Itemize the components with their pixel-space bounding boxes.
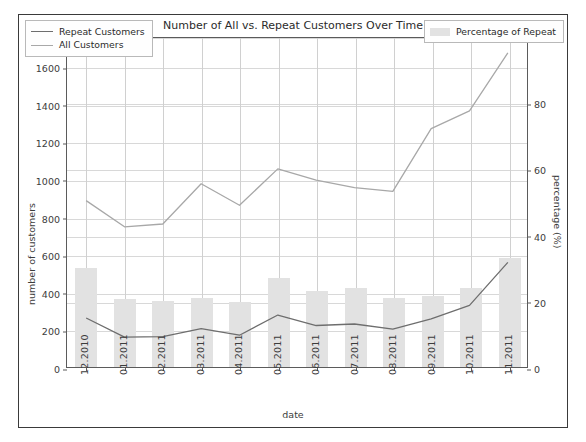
y-tick-label-right: 80	[527, 99, 546, 110]
line-series-layer	[67, 38, 527, 367]
line-all-customers	[86, 53, 508, 227]
x-tick-label: 01.2011	[118, 334, 129, 375]
line-swatch-icon	[31, 45, 53, 46]
line-repeat-customers	[86, 262, 508, 337]
y-axis-label-left: number of customers	[26, 203, 37, 305]
y-tick-label-right: 40	[527, 231, 546, 242]
y-tick-label-left: 1600	[36, 63, 67, 74]
legend-bars: Percentage of Repeat	[424, 20, 564, 43]
legend-label: All Customers	[59, 38, 123, 51]
line-swatch-icon	[31, 31, 53, 32]
x-tick-label: 07.2011	[349, 334, 360, 375]
bar-swatch-icon	[430, 28, 450, 36]
y-tick-label-left: 600	[42, 251, 67, 262]
y-tick-label-left: 1200	[36, 138, 67, 149]
y-axis-label-right: percentage (%)	[552, 175, 563, 249]
y-tick-label-right: 20	[527, 297, 546, 308]
y-tick-label-right: 0	[527, 364, 540, 375]
y-tick-label-left: 0	[54, 364, 67, 375]
x-tick-label: 06.2011	[310, 334, 321, 375]
chart-figure: Number of All vs. Repeat Customers Over …	[18, 14, 568, 428]
legend-label: Repeat Customers	[59, 25, 145, 38]
y-tick-label-left: 400	[42, 288, 67, 299]
x-tick-label: 09.2011	[426, 334, 437, 375]
y-tick-label-left: 1000	[36, 175, 67, 186]
x-tick-label: 04.2011	[233, 334, 244, 375]
x-tick-label: 11.2011	[503, 334, 514, 375]
y-tick-label-right: 60	[527, 165, 546, 176]
y-tick-label-left: 1400	[36, 100, 67, 111]
legend-item-repeat-customers: Repeat Customers	[31, 25, 145, 38]
x-tick-label: 08.2011	[387, 334, 398, 375]
x-tick-label: 10.2011	[464, 334, 475, 375]
x-tick-label: 02.2011	[156, 334, 167, 375]
x-axis-label: date	[19, 409, 567, 420]
plot-area: 0200400600800100012001400160002040608010…	[66, 37, 528, 368]
legend-item-percentage-of-repeat: Percentage of Repeat	[430, 25, 556, 38]
legend-item-all-customers: All Customers	[31, 38, 145, 51]
y-tick-label-left: 800	[42, 213, 67, 224]
x-tick-label: 12.2010	[79, 334, 90, 375]
legend-lines: Repeat Customers All Customers	[25, 20, 153, 57]
x-tick-label: 03.2011	[195, 334, 206, 375]
legend-label: Percentage of Repeat	[456, 25, 556, 38]
x-tick-label: 05.2011	[272, 334, 283, 375]
y-tick-label-left: 200	[42, 326, 67, 337]
